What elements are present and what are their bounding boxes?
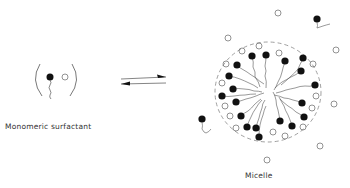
monomer-group [35, 64, 76, 99]
micellization-diagram [0, 0, 350, 188]
equilibrium-arrows-icon [121, 75, 166, 86]
counterion-icon [62, 74, 68, 80]
free-monomer-left [198, 115, 211, 133]
monomeric-surfactant-label: Monomeric surfactant [5, 122, 91, 131]
surfactant-tail [49, 80, 51, 99]
micelle-group [198, 10, 339, 163]
right-parenthesis [70, 64, 77, 96]
micelle-label: Micelle [245, 171, 272, 180]
free-monomer-top-right [313, 15, 330, 28]
left-parenthesis [35, 64, 42, 96]
surfactant-head-icon [47, 74, 54, 81]
